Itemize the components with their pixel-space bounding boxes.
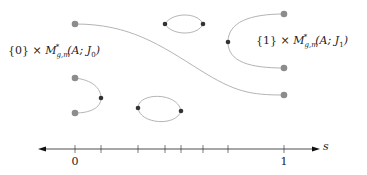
- curve-bottom-loop: [138, 96, 181, 121]
- close-paren: ): [96, 44, 100, 57]
- moduli-symbol: M: [45, 44, 56, 57]
- endpoint-left-mid: [72, 75, 79, 82]
- curve-bottom-left-arc: [75, 78, 101, 113]
- moduli-symbol: M: [293, 34, 304, 47]
- critical-point: [179, 109, 184, 114]
- critical-point: [226, 40, 231, 45]
- tick-label-1: 1: [281, 155, 288, 168]
- axis-variable: s: [323, 140, 329, 153]
- moduli-superscript: *: [56, 43, 60, 51]
- moduli-args: (A; J: [67, 44, 91, 57]
- cobordism-diagram: [0, 0, 367, 175]
- curve-crossing: [75, 24, 284, 95]
- axis-arrow-right-icon: [312, 147, 320, 152]
- endpoint-right-top: [281, 11, 288, 18]
- curve-top-loop: [165, 15, 203, 33]
- label-prefix: {0} ×: [8, 44, 45, 57]
- moduli-superscript: *: [304, 33, 308, 41]
- endpoint-right-mid: [281, 65, 288, 72]
- moduli-subscript: g,m: [56, 51, 69, 59]
- critical-point: [99, 96, 104, 101]
- critical-point: [136, 106, 141, 111]
- critical-point: [163, 22, 168, 27]
- close-paren: ): [344, 34, 348, 47]
- moduli-args: (A; J: [315, 34, 339, 47]
- axis-arrow-left-icon: [38, 147, 46, 152]
- label-prefix: {1} ×: [256, 34, 293, 47]
- right-moduli-label: {1} × Mg,m*(A; J1): [256, 33, 348, 49]
- endpoint-left-bottom: [72, 110, 79, 117]
- left-moduli-label: {0} × Mg,m*(A; J0): [8, 43, 100, 59]
- axis-variable-label: s: [323, 140, 329, 153]
- endpoint-right-bottom: [281, 92, 288, 99]
- endpoint-left-top: [72, 21, 79, 28]
- tick-label-0: 0: [72, 155, 79, 168]
- critical-point: [201, 22, 206, 27]
